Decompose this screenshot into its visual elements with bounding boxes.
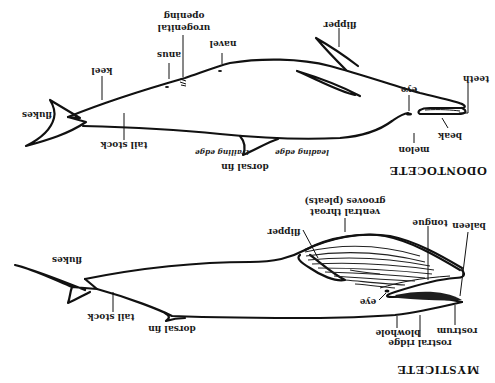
label-flipper: flipper [323,20,356,30]
label-rostrum: rostrum [436,326,477,336]
cetacean-anatomy-diagram: ODONTOCETE urogenital opening navel anus… [0,0,495,383]
label-eye: eye [400,85,417,95]
mysticete-labels: MYSTICETE flukes tail stock dorsal fin v… [52,196,486,378]
mysticete-drawing [15,235,464,321]
label-flukes: flukes [22,110,52,120]
label-dorsal-fin-mysticete: dorsal fin [148,324,196,334]
label-navel: navel [209,39,236,49]
label-urogenital-1: urogenital [157,23,210,33]
label-trailing-edge: trailing edge [195,148,249,157]
label-tongue: tongue [412,218,448,228]
label-baleen: baleen [452,221,486,231]
odontocete-drawing [26,38,465,155]
label-beak: beak [437,131,462,141]
label-melon: melon [398,145,430,155]
label-ventral-1: ventral throat [309,207,381,217]
label-urogenital-2: opening [163,11,205,21]
label-tail-stock-mysticete: tail stock [87,312,135,322]
label-rostral-ridge: rostral ridge [388,338,452,348]
label-dorsal-fin: dorsal fin [221,162,269,172]
label-eye-mysticete: eye [359,297,376,307]
label-leading-edge: leading edge [275,148,329,157]
label-blowhole: blowhole [375,328,420,338]
label-anus: anus [157,50,181,60]
mysticete-title: MYSTICETE [397,363,480,378]
label-keel: keel [91,66,113,76]
label-ventral-2: grooves (pleats) [304,196,385,206]
label-flukes-mysticete: flukes [52,255,82,265]
odontocete-title: ODONTOCETE [389,164,487,179]
odontocete-beak [418,104,465,114]
label-tail-stock: tail stock [100,140,148,150]
odontocete-flipper-lower [297,71,360,96]
mysticete-flukes [15,265,97,303]
odontocete-back-outline [83,113,408,139]
label-flipper-mysticete: flipper [267,227,300,237]
odontocete-labels: ODONTOCETE urogenital opening navel anus… [22,11,489,179]
odontocete-flukes [26,100,86,146]
label-teeth: teeth [462,74,489,84]
